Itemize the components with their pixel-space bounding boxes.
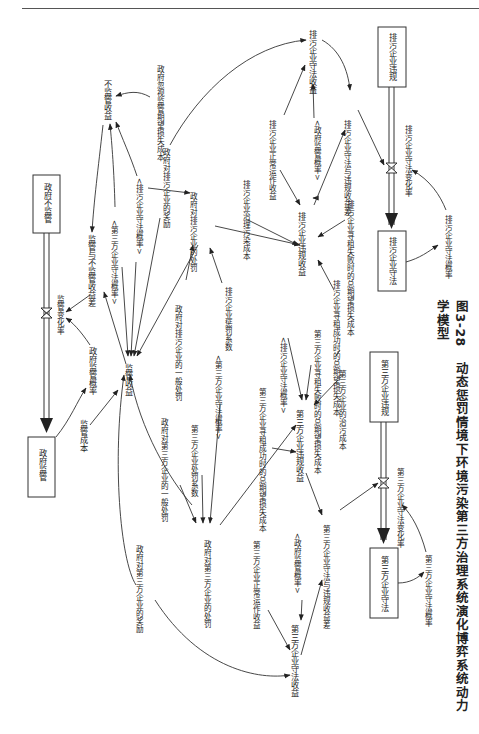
var-polluter-comply-prob: 排污企业守法概率 (444, 214, 453, 280)
var-polluter-comply-prob-shadow: <排污企业守法概率> (135, 178, 144, 255)
var-third-income-diff: 第三方企业守法与违规收益差 (322, 524, 331, 629)
figure-caption: 图3-28 动态惩罚情境下环境污染第三方治理系统演化博弈系统动力学模型 (440, 300, 470, 720)
svg-text:排污企业守法: 排污企业守法 (387, 236, 397, 286)
var-polluter-comply-income: 排污企业守法收益 (307, 29, 317, 94)
var-gov-reward-third: 政府对第三方企业的奖励 (135, 544, 144, 634)
var-third-treat-cost: 第三方企业的治污成本 (338, 369, 347, 451)
pipe-polluter: 排污企业守法变化率 (385, 87, 413, 229)
stock-gov-no-supervise: 政府不监管 (33, 175, 60, 233)
svg-text:第三方企业守法变化率: 第三方企业守法变化率 (396, 467, 405, 549)
svg-text:政府不监管: 政府不监管 (42, 182, 52, 224)
caption-title: 动态惩罚情境下环境污染第三方治理系统演化博弈系统动力学模型 (434, 300, 468, 713)
var-third-violate-income: 第三方企业违规收益 (294, 409, 304, 482)
svg-text:第三方企业违规: 第三方企业违规 (379, 359, 389, 417)
stock-third-violate: 第三方企业违规 (370, 352, 398, 422)
stock-gov-supervise: 政府监管 (28, 437, 55, 497)
var-polluter-normal-income: 排污企业正常运作收益 (268, 119, 277, 200)
var-supervise-income: 监管收益 (123, 363, 133, 396)
var-third-rent-success-loss: 第三方企业寻租成功时的总期望损失成本 (258, 387, 267, 533)
var-gov-supervise-prob: 政府监管概率 (87, 346, 97, 396)
var-polluter-punish-coef: 排污企业惩罚系数 (224, 286, 233, 352)
var-third-punish-coef: 第三方企业处罚系数 (190, 424, 199, 498)
caption-number: 图3-28 (453, 300, 468, 347)
svg-text:监管变化率: 监管变化率 (56, 294, 65, 336)
var-gov-punish-third: 政府对第三方企业的处罚 (203, 539, 212, 629)
stock-polluter-violate: 排污企业违规 (378, 27, 406, 87)
var-third-comply-prob: 第三方企业守法概率 (424, 554, 433, 628)
var-gov-reward-polluter: 政府对排污企业的奖励 (162, 147, 171, 229)
var-no-supervise-income: 不监管收益 (102, 80, 112, 120)
var-polluter-comply-prob-shadow2: <排污企业守法概率> (279, 337, 288, 414)
var-polluter-treat-cost: 排污企业治理污染成本 (242, 179, 251, 261)
var-third-normal-income: 第三方企业正常运作收益 (252, 540, 261, 629)
var-third-comply-income: 第三方企业守法收益 (289, 624, 299, 697)
svg-text:第三方企业守法: 第三方企业守法 (379, 555, 389, 613)
var-supervise-diff: 监管与不监管收益差 (86, 234, 96, 307)
valve-supervise-rate: 监管变化率 (41, 294, 65, 336)
pipe-supervise (40, 233, 53, 434)
svg-text:排污企业违规: 排污企业违规 (387, 32, 397, 82)
var-gov-supervise-prob-shadow1: <政府监管概率> (313, 120, 322, 181)
var-gov-supervise-prob-shadow2: <政府监管概率> (293, 533, 302, 594)
svg-text:政府监管: 政府监管 (37, 448, 47, 482)
system-dynamics-diagram: 政府不监管 监管变化率 政府监管 不监管收益 政府忽视监管期望损失成本 监管与不… (0, 0, 479, 734)
svg-text:排污企业守法变化率: 排污企业守法变化率 (404, 124, 413, 198)
pipe-third: 第三方企业守法变化率 (377, 422, 405, 549)
stock-polluter-comply: 排污企业守法 (378, 231, 406, 291)
var-gov-general-punish-polluter: 政府对排污企业的一般处罚 (174, 304, 183, 402)
var-supervise-cost: 监管成本 (78, 419, 88, 453)
var-third-comply-prob-shadow: <第三方企业守法概率> (110, 220, 119, 305)
var-polluter-rent-fail-loss: 排污企业寻租失败时的总期望损失成本 (346, 199, 355, 337)
stock-third-comply: 第三方企业守法 (370, 548, 398, 618)
var-polluter-violate-income: 排污企业违规收益 (296, 211, 306, 276)
